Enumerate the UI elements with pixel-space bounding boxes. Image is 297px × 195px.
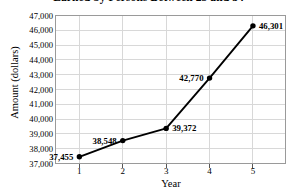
data-point-value-label: 42,770 (179, 73, 203, 83)
data-point-value-label: 39,372 (172, 123, 196, 133)
data-point-value-label: 46,301 (259, 21, 283, 31)
data-point-value-label: 37,455 (49, 152, 73, 162)
data-point-value-label: 38,548 (93, 136, 117, 146)
data-point-labels: 37,45538,54839,37242,77046,301 (0, 0, 297, 195)
line-chart: Earned by Persons Between 25 and 34 Amou… (0, 0, 297, 195)
